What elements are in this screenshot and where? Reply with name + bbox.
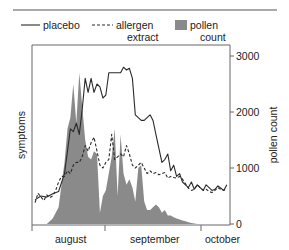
right-axis-title: pollen count xyxy=(267,107,279,164)
pollen-area-shape xyxy=(35,73,200,224)
y-tick-label-0: 0 xyxy=(236,218,242,230)
x-label-september: september xyxy=(130,233,180,245)
y-tick-label-2000: 2000 xyxy=(236,106,260,118)
y-tick-label-3000: 3000 xyxy=(236,50,260,62)
legend-placebo-label: placebo xyxy=(43,19,80,31)
legend-allergen-label-1: allergen xyxy=(116,19,154,31)
x-label-october: october xyxy=(205,233,241,245)
left-axis-title: symptoms xyxy=(15,111,27,159)
x-label-august: august xyxy=(55,233,87,245)
legend-allergen-label-2: extract xyxy=(127,31,159,43)
legend: placebo allergen extract pollen count xyxy=(21,19,226,43)
pollen-area xyxy=(35,73,200,224)
legend-pollen-swatch-icon xyxy=(175,20,187,30)
legend-pollen-label-1: pollen xyxy=(190,19,218,31)
y-tick-label-1000: 1000 xyxy=(236,162,260,174)
x-ticks: august september october xyxy=(32,225,241,245)
legend-pollen-label-2: count xyxy=(200,31,226,43)
chart-figure: placebo allergen extract pollen count au… xyxy=(0,0,289,250)
right-y-ticks: 3000 2000 1000 0 xyxy=(230,50,260,230)
